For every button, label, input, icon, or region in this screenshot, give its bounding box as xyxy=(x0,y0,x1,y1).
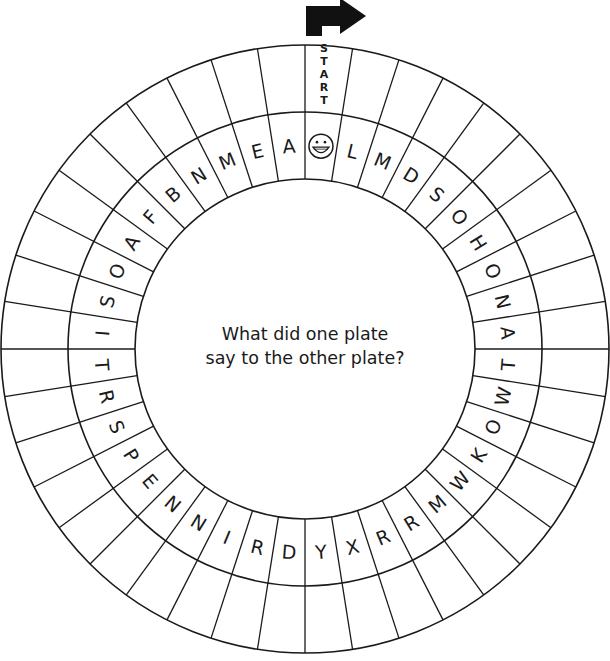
start-label-letter: R xyxy=(320,81,329,94)
cipher-letter: R xyxy=(400,510,423,536)
cipher-letter: L xyxy=(345,139,361,163)
cipher-letter: X xyxy=(344,535,362,559)
cipher-letter: S xyxy=(95,293,119,310)
segment-divider xyxy=(405,103,484,211)
arrow-right-turn-icon xyxy=(306,0,366,36)
cipher-letter: E xyxy=(249,139,266,163)
cipher-letter: R xyxy=(249,535,267,559)
cipher-letter: S xyxy=(425,182,448,207)
cipher-letter: R xyxy=(95,388,119,406)
riddle-question: What did one plate say to the other plat… xyxy=(155,322,455,370)
cipher-letter: T xyxy=(91,357,114,372)
cipher-letter: N xyxy=(160,491,185,517)
question-line-2: say to the other plate? xyxy=(155,346,455,370)
start-label-letter: T xyxy=(320,94,328,107)
cipher-letter: A xyxy=(496,326,519,341)
question-line-1: What did one plate xyxy=(155,322,455,346)
cipher-letter: Y xyxy=(313,540,328,563)
cipher-letter: F xyxy=(138,206,162,229)
cipher-letter: P xyxy=(119,445,144,466)
cipher-letter: R xyxy=(373,524,394,549)
cipher-letter: I xyxy=(91,329,113,336)
cipher-letter: O xyxy=(104,260,130,282)
segment-divider xyxy=(90,469,185,564)
smiley-face-icon xyxy=(309,134,333,158)
cipher-letter: W xyxy=(445,467,474,496)
segment-divider xyxy=(90,134,185,229)
cipher-letter: O xyxy=(447,204,473,230)
cipher-letter: A xyxy=(119,231,145,254)
cipher-letter: O xyxy=(480,260,506,282)
cipher-letter: B xyxy=(161,182,185,207)
cipher-letter: O xyxy=(480,416,506,438)
cipher-letter: N xyxy=(187,509,211,535)
cipher-letter: D xyxy=(281,540,297,563)
cipher-letter: W xyxy=(490,385,516,409)
cipher-letter: T xyxy=(496,358,519,373)
cipher-letter: E xyxy=(138,469,163,492)
cipher-letter: M xyxy=(215,148,239,175)
cipher-letter: M xyxy=(424,490,451,517)
cipher-letter: M xyxy=(371,148,395,175)
cipher-letter: K xyxy=(466,444,492,467)
cipher-letter: S xyxy=(105,417,130,437)
cipher-letter: D xyxy=(399,162,423,188)
start-label-letter: T xyxy=(320,55,328,68)
cipher-letter: N xyxy=(491,292,516,311)
cipher-letter: N xyxy=(187,162,211,188)
cipher-letter: H xyxy=(465,231,491,255)
segment-divider xyxy=(59,170,167,249)
start-label-letter: A xyxy=(320,68,329,81)
cipher-letter: I xyxy=(220,526,234,548)
cipher-letter: A xyxy=(282,135,297,158)
start-label-letter: S xyxy=(320,42,328,55)
segment-divider xyxy=(425,469,520,564)
start-marker: START xyxy=(306,0,366,107)
segment-divider xyxy=(59,449,167,528)
